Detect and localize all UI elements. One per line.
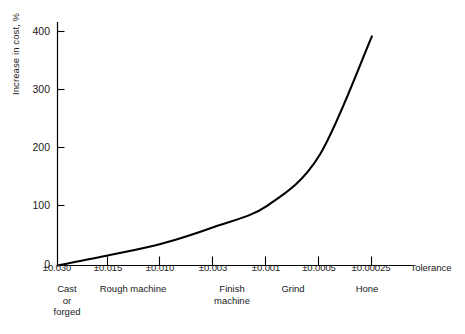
y-tick-label-400: 400	[10, 25, 50, 37]
process-finish-line2: machine	[177, 295, 287, 307]
y-tick-label-100: 100	[10, 199, 50, 211]
process-cast-line3: forged	[12, 306, 122, 318]
cost-curve-path	[58, 36, 372, 265]
y-tick-label-300: 300	[10, 83, 50, 95]
process-cast-line2: or	[12, 295, 122, 307]
y-tick-label-200: 200	[10, 141, 50, 153]
process-group-hone: Hone	[312, 283, 422, 295]
x-axis-label: Tolerance	[396, 262, 465, 273]
process-group-rough: Rough machine	[78, 283, 188, 295]
process-rough-line1: Rough machine	[78, 283, 188, 295]
process-hone-line1: Hone	[312, 283, 422, 295]
cost-tolerance-chart: Increase in cost, % 400 300 200 100 0 ±0…	[0, 0, 465, 334]
